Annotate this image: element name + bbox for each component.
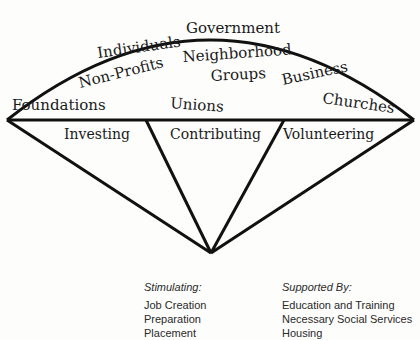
contributor-label: Non-Profits [77,53,166,91]
stimulating-item: Job Creation [144,298,206,312]
segment-labels: InvestingContributingVolunteering [64,126,374,142]
segment-label: Volunteering [282,126,374,142]
contributor-label: Government [186,19,280,37]
contributor-label: Individuals [96,32,182,62]
stimulating-heading: Stimulating: [144,280,201,294]
stimulating-item: Preparation [144,312,201,326]
contributor-label: Groups [210,64,266,85]
stimulating-item: Placement [144,326,196,340]
contributor-label: Foundations [12,96,106,114]
contributor-label: Unions [170,94,225,116]
contributor-label: Churches [321,89,395,117]
supported-by-heading: Supported By: [282,280,352,294]
supported-by-item: Education and Training [282,298,395,312]
segment-label: Contributing [170,126,261,142]
supported-by-item: Necessary Social Services [282,312,412,326]
supported-by-item: Housing [282,326,322,340]
contributor-labels: GovernmentIndividualsNeighborhoodGroupsN… [12,19,396,117]
segment-label: Investing [64,126,130,142]
contributor-label: Neighborhood [182,40,293,66]
